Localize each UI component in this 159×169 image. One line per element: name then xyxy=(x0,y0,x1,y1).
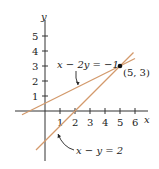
equation-label-1: x − 2y = −1 xyxy=(57,59,119,70)
y-tick-label: 1 xyxy=(32,91,38,102)
y-tick-label: 3 xyxy=(32,61,38,72)
arrow-head-icon xyxy=(76,82,80,86)
equation-label-2: x − y = 2 xyxy=(76,145,123,156)
y-tick-labels: 1 2 3 4 5 xyxy=(32,31,38,102)
y-tick-label: 5 xyxy=(32,31,38,42)
x-tick-label: 4 xyxy=(102,117,108,128)
y-axis-label: y xyxy=(40,11,47,22)
intersection-label: (5, 3) xyxy=(123,67,150,78)
x-tick-label: 3 xyxy=(87,117,93,128)
x-axis-label: x xyxy=(144,114,150,125)
x-tick-labels: 1 2 3 4 5 6 xyxy=(57,117,138,128)
x-tick-label: 6 xyxy=(132,117,138,128)
x-tick-label: 2 xyxy=(72,117,78,128)
x-tick-label: 5 xyxy=(117,117,123,128)
line-intersection-chart: 1 2 3 4 5 6 x 1 2 3 4 5 y (5, 3) x − 2y … xyxy=(0,0,159,169)
y-tick-label: 4 xyxy=(32,46,38,57)
y-tick-label: 2 xyxy=(32,76,38,87)
